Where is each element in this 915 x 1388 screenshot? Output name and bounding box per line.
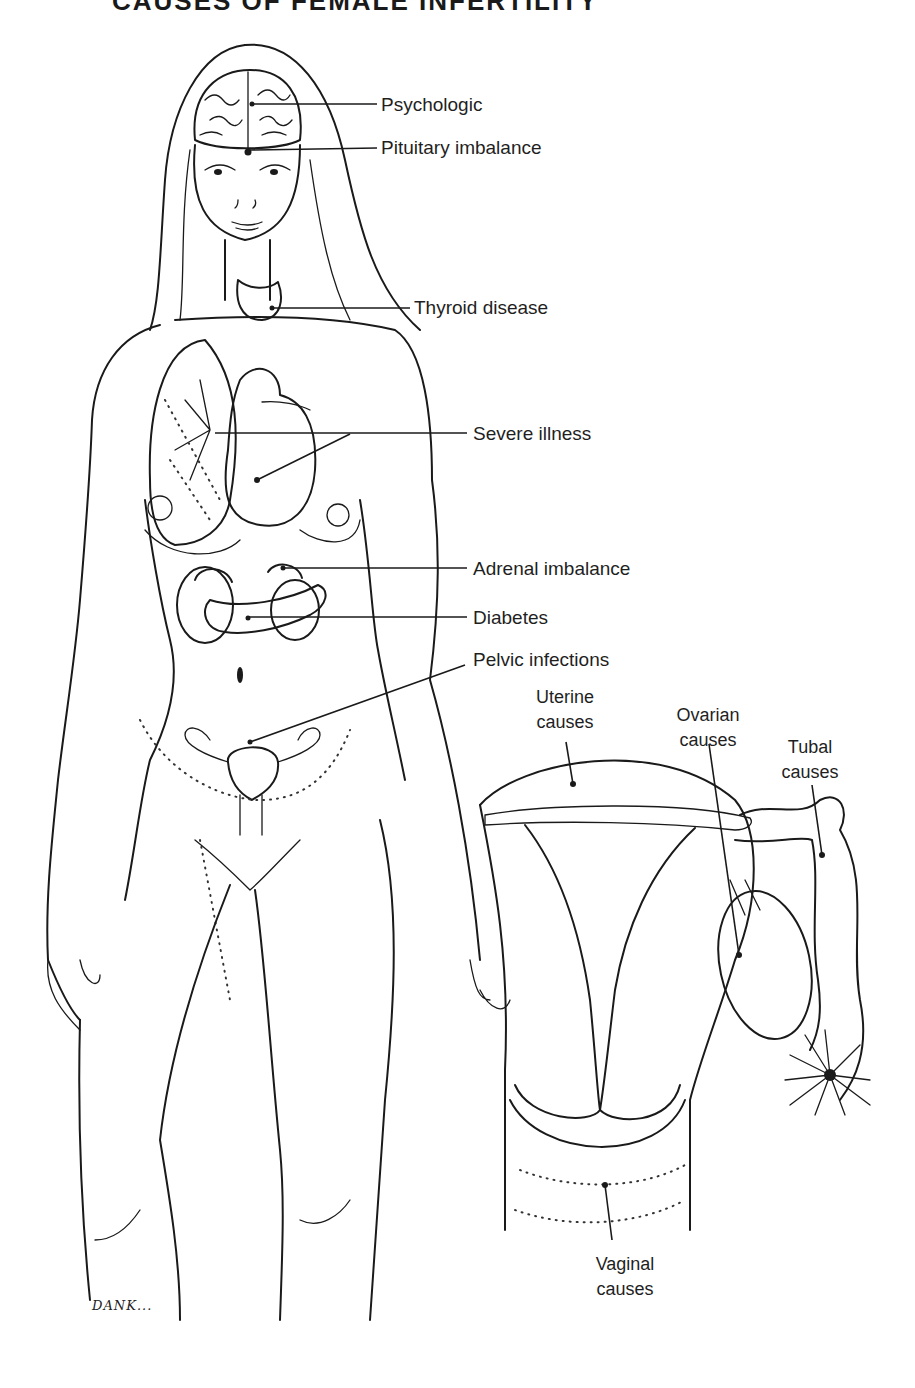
- infertility-diagram: CAUSES OF FEMALE INFERTILITY: [0, 0, 915, 1388]
- label-adrenal-imbalance: Adrenal imbalance: [473, 559, 630, 578]
- fimbriae: [785, 1030, 870, 1115]
- hands: [48, 960, 510, 1030]
- pelvic-organs: [185, 667, 320, 835]
- lung-illustration: [150, 340, 236, 545]
- heart-illustration: [226, 369, 316, 526]
- body-illustration: [0, 0, 915, 1388]
- brain-illustration: [194, 70, 300, 156]
- label-ovarian-causes: Ovarian causes: [658, 703, 758, 753]
- label-pelvic-infections: Pelvic infections: [473, 650, 609, 669]
- label-psychologic: Psychologic: [381, 95, 482, 114]
- label-uterine-causes: Uterine causes: [515, 685, 615, 735]
- reproductive-inset: [480, 742, 870, 1240]
- artist-signature: DANK...: [92, 1298, 152, 1313]
- label-vaginal-causes: Vaginal causes: [575, 1252, 675, 1302]
- torso-outline: [47, 317, 480, 1020]
- label-diabetes: Diabetes: [473, 608, 548, 627]
- hip-lines: [140, 720, 350, 1000]
- hair-outline: [150, 45, 420, 330]
- label-tubal-causes: Tubal causes: [760, 735, 860, 785]
- label-thyroid-disease: Thyroid disease: [414, 298, 548, 317]
- abdominal-organs: [177, 565, 326, 643]
- label-pituitary-imbalance: Pituitary imbalance: [381, 138, 542, 157]
- label-severe-illness: Severe illness: [473, 424, 591, 443]
- face: [194, 145, 300, 240]
